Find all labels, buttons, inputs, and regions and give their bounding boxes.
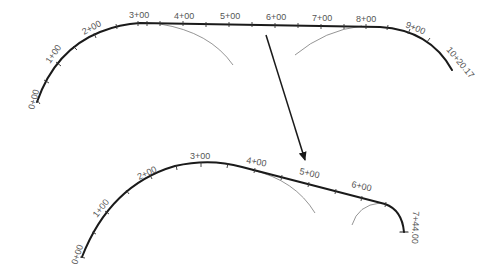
top-station-label-5: 5+00: [220, 11, 240, 21]
top-alignment: 0+00 1+00 2+00 3+00 4+00 5+00 6+00 7+00 …: [26, 10, 476, 111]
top-station-label-7: 7+00: [312, 13, 332, 23]
bottom-alignment: 0+00 1+00 2+00 3+00 4+00 5+00 6+00 7+44.…: [69, 151, 421, 266]
bottom-station-label-1: 1+00: [91, 197, 111, 219]
top-station-label-end: 10+20.17: [444, 45, 476, 80]
bottom-station-label-2: 2+00: [136, 164, 159, 182]
top-station-label-8: 8+00: [356, 14, 376, 24]
top-construction-arc-right: [295, 26, 362, 55]
bottom-alignment-path: [82, 162, 404, 257]
top-station-label-4: 4+00: [174, 11, 194, 21]
top-station-label-9: 9+00: [404, 20, 427, 37]
bottom-station-label-5: 5+00: [299, 166, 321, 180]
bottom-station-label-end: 7+44.00: [410, 211, 421, 244]
top-station-label-1: 1+00: [43, 43, 63, 65]
top-station-label-2: 2+00: [80, 18, 103, 36]
top-station-label-3: 3+00: [129, 10, 149, 20]
top-alignment-path: [37, 23, 452, 102]
bottom-station-ticks: [80, 162, 386, 258]
bottom-station-label-3: 3+00: [190, 151, 210, 161]
top-construction-arc-left: [160, 24, 233, 65]
top-station-label-6: 6+00: [266, 12, 286, 22]
bottom-construction-arc-right: [352, 203, 380, 225]
bottom-station-label-6: 6+00: [351, 179, 373, 193]
transform-arrow: [266, 35, 305, 160]
bottom-station-label-4: 4+00: [246, 155, 268, 168]
alignment-diagram: 0+00 1+00 2+00 3+00 4+00 5+00 6+00 7+00 …: [0, 0, 489, 277]
